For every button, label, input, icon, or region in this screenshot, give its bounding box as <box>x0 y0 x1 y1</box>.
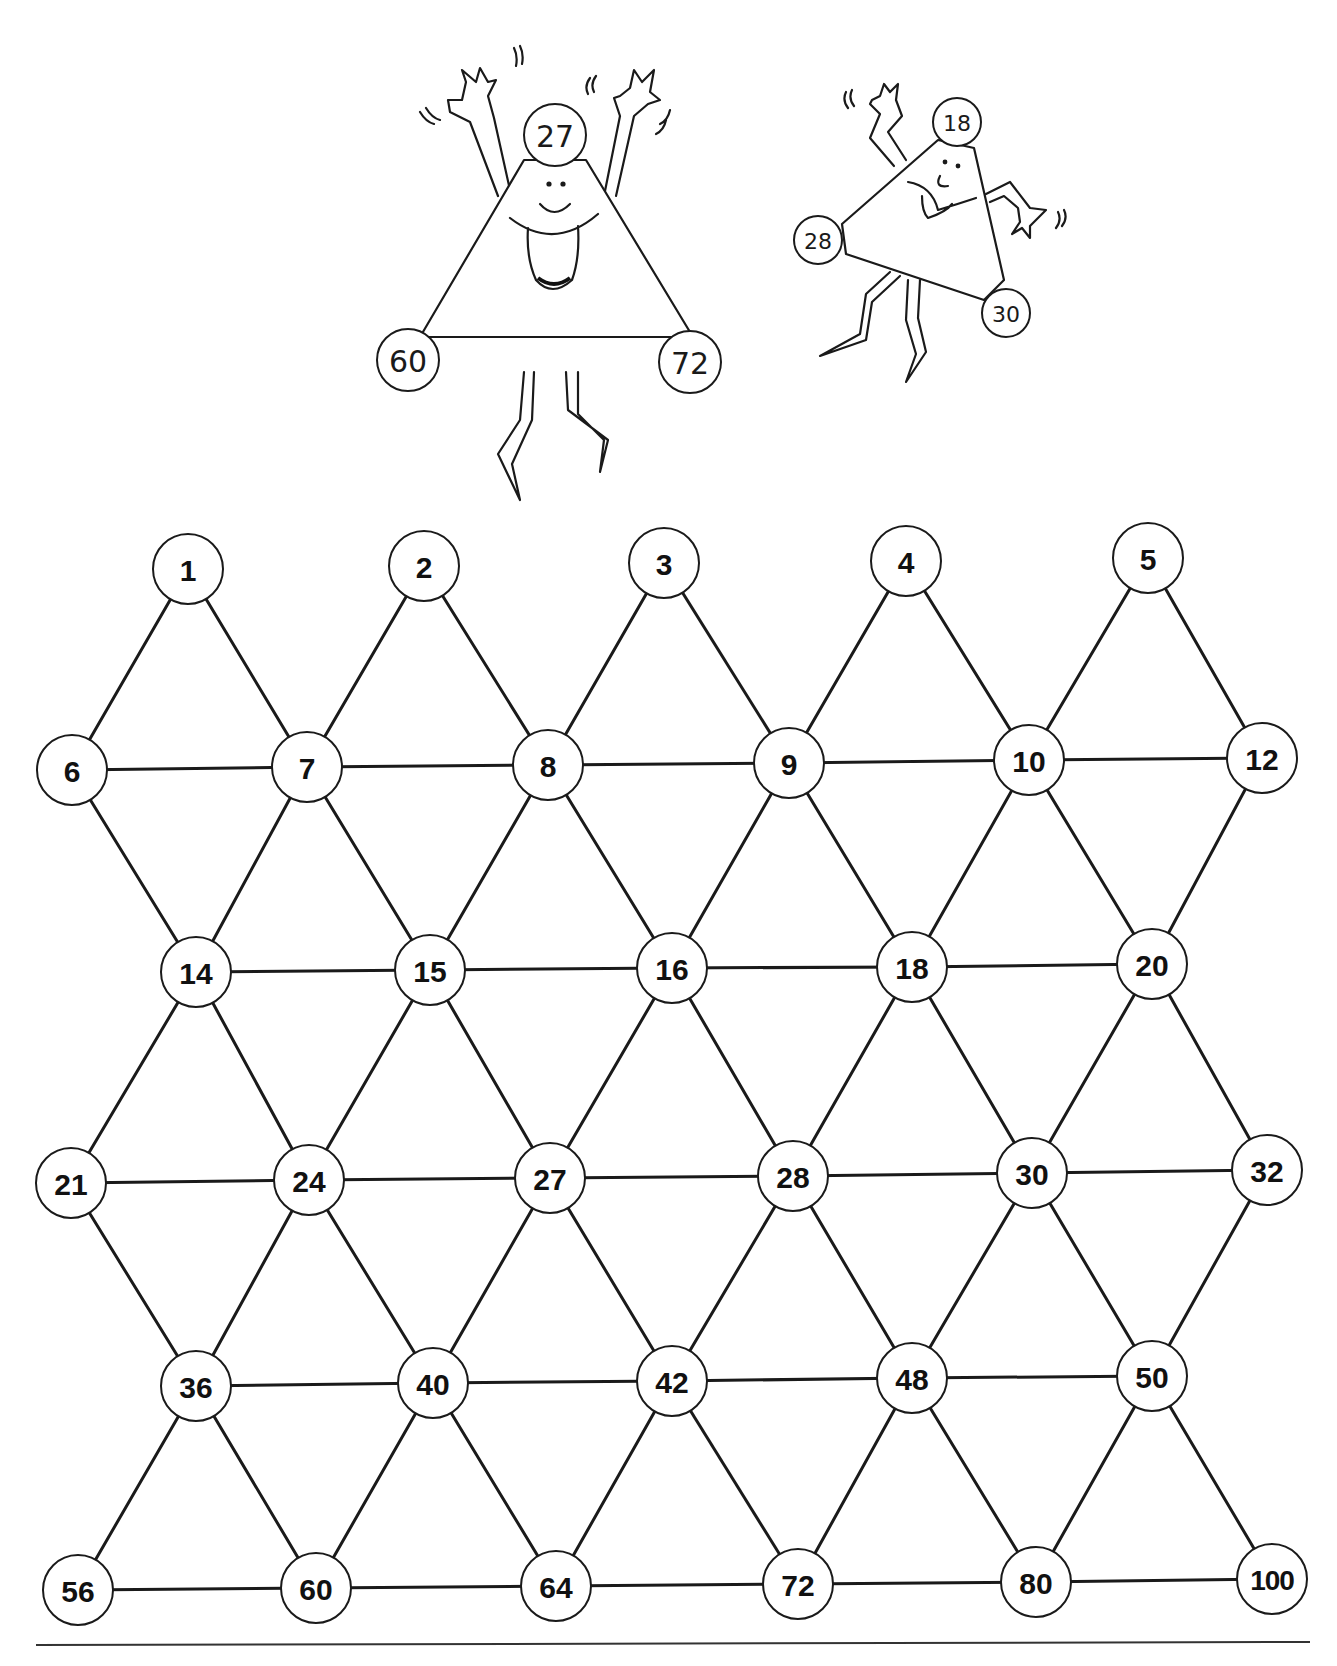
grid-node: 40 <box>398 1348 468 1418</box>
grid-node: 24 <box>274 1145 344 1215</box>
big-triangle-mascot: 27 60 72 <box>377 46 721 500</box>
grid-edge <box>309 970 430 1180</box>
mascot-vertex-right: 72 <box>659 331 721 393</box>
svg-text:28: 28 <box>804 229 832 254</box>
node-label: 40 <box>416 1368 449 1401</box>
node-label: 36 <box>179 1371 212 1404</box>
node-label: 60 <box>299 1573 332 1606</box>
mascot-vertex-top: 27 <box>524 104 586 166</box>
grid-node: 4 <box>871 526 941 596</box>
grid-edge <box>912 1376 1152 1378</box>
node-label: 10 <box>1012 745 1045 778</box>
grid-node: 6 <box>37 735 107 805</box>
node-label: 7 <box>299 752 316 785</box>
triangle-body <box>842 140 1004 300</box>
footer-divider <box>36 1642 1310 1645</box>
left-eye-icon <box>943 160 948 165</box>
node-label: 6 <box>64 755 81 788</box>
mascot-vertex-left: 60 <box>377 329 439 391</box>
node-label: 8 <box>540 750 557 783</box>
grid-node: 32 <box>1232 1135 1302 1205</box>
grid-node: 10 <box>994 725 1064 795</box>
mascot-vertex-top: 18 <box>933 98 981 146</box>
node-label: 42 <box>655 1366 688 1399</box>
grid-node: 12 <box>1227 723 1297 793</box>
grid-node: 28 <box>758 1141 828 1211</box>
grid-node: 8 <box>513 730 583 800</box>
node-label: 4 <box>898 546 915 579</box>
grid-edge <box>556 1584 798 1586</box>
svg-text:60: 60 <box>389 344 427 379</box>
left-arm-icon <box>448 68 510 196</box>
grid-edge <box>309 1178 550 1180</box>
grid-edge <box>793 967 912 1176</box>
grid-node: 42 <box>637 1346 707 1416</box>
left-leg-icon <box>820 272 900 356</box>
small-triangle-mascot: 18 28 30 <box>794 84 1066 382</box>
grid-edge <box>316 1586 556 1588</box>
node-label: 56 <box>61 1575 94 1608</box>
grid-node: 72 <box>763 1549 833 1619</box>
grid-node: 48 <box>877 1343 947 1413</box>
node-label: 32 <box>1250 1155 1283 1188</box>
grid-node: 27 <box>515 1143 585 1213</box>
node-label: 5 <box>1140 543 1157 576</box>
grid-edge <box>430 968 672 970</box>
grid-edge <box>672 967 912 968</box>
grid-node: 30 <box>997 1138 1067 1208</box>
grid-node: 9 <box>754 728 824 798</box>
svg-text:27: 27 <box>536 119 574 154</box>
node-label: 80 <box>1019 1567 1052 1600</box>
grid-node: 1 <box>153 534 223 604</box>
grid-edge <box>430 970 550 1178</box>
node-label: 48 <box>895 1363 928 1396</box>
triangle-body <box>420 160 693 337</box>
grid-node: 5 <box>1113 523 1183 593</box>
grid-node: 56 <box>43 1555 113 1625</box>
grid-edge <box>672 968 793 1176</box>
node-label: 21 <box>54 1168 87 1201</box>
grid-node: 50 <box>1117 1341 1187 1411</box>
node-label: 9 <box>781 748 798 781</box>
grid-edge <box>550 1176 793 1178</box>
node-label: 50 <box>1135 1361 1168 1394</box>
node-label: 12 <box>1245 743 1278 776</box>
grid-node: 2 <box>389 531 459 601</box>
right-leg-icon <box>566 372 608 472</box>
node-label: 18 <box>895 952 928 985</box>
grid-edges <box>71 558 1272 1590</box>
grid-node: 16 <box>637 933 707 1003</box>
grid-edge <box>789 760 1029 763</box>
right-arm-icon <box>604 70 660 196</box>
grid-node: 21 <box>36 1148 106 1218</box>
grid-node: 36 <box>161 1351 231 1421</box>
svg-text:30: 30 <box>992 302 1020 327</box>
node-label: 2 <box>416 551 433 584</box>
left-arm-icon <box>870 84 906 166</box>
grid-edge <box>71 972 196 1183</box>
node-label: 1 <box>180 554 197 587</box>
svg-text:72: 72 <box>671 346 709 381</box>
grid-edge <box>912 964 1152 967</box>
node-label: 3 <box>656 548 673 581</box>
node-label: 72 <box>781 1569 814 1602</box>
grid-edge <box>1032 964 1152 1173</box>
grid-node: 18 <box>877 932 947 1002</box>
right-eye-icon <box>560 181 565 186</box>
node-label: 30 <box>1015 1158 1048 1191</box>
grid-node: 15 <box>395 935 465 1005</box>
grid-edge <box>550 968 672 1178</box>
node-label: 15 <box>413 955 446 988</box>
grid-node: 60 <box>281 1553 351 1623</box>
grid-node: 80 <box>1001 1547 1071 1617</box>
node-label: 24 <box>292 1165 326 1198</box>
node-label: 100 <box>1250 1565 1294 1596</box>
grid-node: 3 <box>629 528 699 598</box>
grid-edge <box>548 763 789 765</box>
right-arm-icon <box>986 182 1046 238</box>
node-label: 28 <box>776 1161 809 1194</box>
node-label: 14 <box>179 957 213 990</box>
grid-edge <box>307 765 548 767</box>
node-label: 64 <box>539 1571 573 1604</box>
grid-node: 14 <box>161 937 231 1007</box>
